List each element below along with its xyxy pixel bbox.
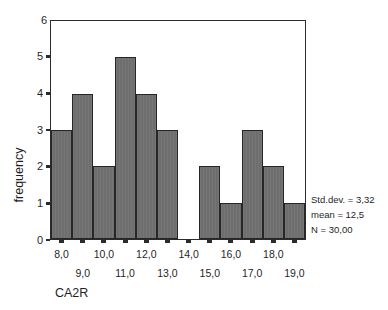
y-axis-tick-label: 1 [37, 198, 43, 209]
x-axis-tick-mark [165, 240, 170, 243]
histogram-bin [242, 21, 263, 239]
x-axis-tick-mark [228, 240, 233, 243]
x-axis-title: CA2R [55, 286, 88, 300]
histogram-bar [220, 203, 241, 239]
histogram-bin [51, 21, 72, 239]
x-axis-tick [93, 240, 114, 245]
x-axis-tick [199, 240, 220, 245]
x-axis-tick [115, 240, 136, 245]
x-axis-tick-label: 13,0 [157, 266, 178, 280]
x-axis-tick-mark [186, 240, 191, 243]
x-axis-tick [157, 240, 178, 245]
histogram-bin [115, 21, 136, 239]
y-axis-tick-mark [46, 165, 50, 168]
x-axis-tick-mark [250, 240, 255, 243]
y-axis-tick-label: 0 [37, 235, 43, 246]
x-axis-tick [263, 240, 284, 245]
x-axis-tick-label: 15,0 [199, 266, 220, 280]
y-axis-tick-label: 2 [37, 161, 43, 172]
x-axis-tick-mark [59, 240, 64, 243]
x-axis-tick-label: 11,0 [115, 266, 136, 280]
histogram-bin [220, 21, 241, 239]
histogram-bar [51, 130, 72, 239]
x-axis-tick-label: 10,0 [93, 247, 114, 261]
histogram-bar [115, 57, 136, 239]
histogram-bin [157, 21, 178, 239]
y-axis-tick-mark [46, 129, 50, 132]
y-axis-tick-label: 3 [37, 125, 43, 136]
histogram-bin [284, 21, 305, 239]
n-label: N = 30,00 [311, 222, 387, 237]
x-axis-tick-mark [123, 240, 128, 243]
histogram-bin [93, 21, 114, 239]
x-axis-tick-mark [271, 240, 276, 243]
histogram-bar [72, 94, 93, 239]
histogram-bar [93, 166, 114, 239]
y-axis-tick-mark [46, 55, 50, 58]
bars-layer [51, 21, 305, 239]
histogram-bin [199, 21, 220, 239]
x-axis-tick-label: 12,0 [136, 247, 157, 261]
y-axis-tick-mark [46, 92, 50, 95]
histogram-bar [284, 203, 305, 239]
statistics-annotation: Std.dev. = 3,32 mean = 12,5 N = 30,00 [311, 192, 387, 237]
x-axis-tick-label: 16,0 [220, 247, 241, 261]
histogram-chart: 0123456 8,010,012,014,016,018,0 9,011,01… [0, 0, 388, 310]
mean-label: mean = 12,5 [311, 207, 387, 222]
x-axis-tick-mark [292, 240, 297, 243]
histogram-bin [72, 21, 93, 239]
std-dev-label: Std.dev. = 3,32 [311, 192, 387, 207]
histogram-bin [136, 21, 157, 239]
x-axis-tick-label: 9,0 [72, 266, 93, 280]
x-axis-tick [284, 240, 305, 245]
histogram-bar [199, 166, 220, 239]
x-axis-tick [220, 240, 241, 245]
x-axis-tick-label: 8,0 [51, 247, 72, 261]
histogram-bar [263, 166, 284, 239]
x-axis-tick-mark [80, 240, 85, 243]
x-axis-tick-marks [51, 240, 305, 245]
x-axis-tick-label: 18,0 [263, 247, 284, 261]
histogram-bin [178, 21, 199, 239]
histogram-bar [242, 130, 263, 239]
x-axis-tick [178, 240, 199, 245]
y-axis-tick-mark [46, 239, 50, 242]
x-axis-tick [72, 240, 93, 245]
y-axis-tick-label: 5 [37, 51, 43, 62]
x-axis-tick-label: 19,0 [284, 266, 305, 280]
x-axis-tick-label: 14,0 [178, 247, 199, 261]
x-axis-tick [136, 240, 157, 245]
y-axis-tick-label: 4 [37, 88, 43, 99]
x-axis-labels-lower-row: 9,011,013,015,017,019,0 [51, 266, 305, 280]
x-axis-tick-mark [101, 240, 106, 243]
y-axis-tick-mark [46, 202, 50, 205]
y-axis-title: frequency [12, 130, 26, 220]
x-axis-tick-label: 17,0 [242, 266, 263, 280]
x-axis-tick [242, 240, 263, 245]
histogram-bar [136, 94, 157, 239]
x-axis-tick-mark [207, 240, 212, 243]
x-axis-labels-upper-row: 8,010,012,014,016,018,0 [51, 247, 305, 261]
histogram-bin [263, 21, 284, 239]
histogram-bar [157, 130, 178, 239]
x-axis-tick [51, 240, 72, 245]
x-axis-tick-mark [144, 240, 149, 243]
y-axis-tick-label: 6 [41, 15, 47, 26]
